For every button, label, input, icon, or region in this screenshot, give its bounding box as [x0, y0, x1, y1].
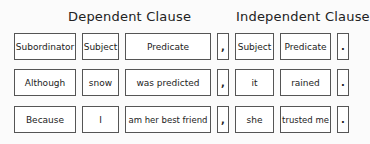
cell-predicate: am her best friend: [125, 106, 211, 133]
cell-subordinator-header: Subordinator: [14, 33, 76, 60]
dependent-clause-title: Dependent Clause: [68, 9, 191, 24]
cell-comma: ,: [217, 106, 229, 133]
cell-period-header: .: [337, 33, 349, 60]
cell-subject: I: [82, 106, 119, 133]
cell-comma-header: ,: [217, 33, 229, 60]
cell-subject: snow: [82, 69, 119, 96]
cell-subject2: she: [235, 106, 274, 133]
cell-period: .: [337, 106, 349, 133]
cell-subject2-header: Subject: [235, 33, 274, 60]
independent-clause-title: Independent Clause: [236, 9, 370, 24]
cell-subordinator: Although: [14, 69, 76, 96]
cell-predicate2: trusted me: [280, 106, 331, 133]
cell-predicate-header: Predicate: [125, 33, 211, 60]
cell-predicate2-header: Predicate: [280, 33, 331, 60]
cell-subject-header: Subject: [82, 33, 119, 60]
cell-subject2: it: [235, 69, 274, 96]
cell-subordinator: Because: [14, 106, 76, 133]
cell-comma: ,: [217, 69, 229, 96]
cell-predicate: was predicted: [125, 69, 211, 96]
cell-predicate2: rained: [280, 69, 331, 96]
cell-period: .: [337, 69, 349, 96]
